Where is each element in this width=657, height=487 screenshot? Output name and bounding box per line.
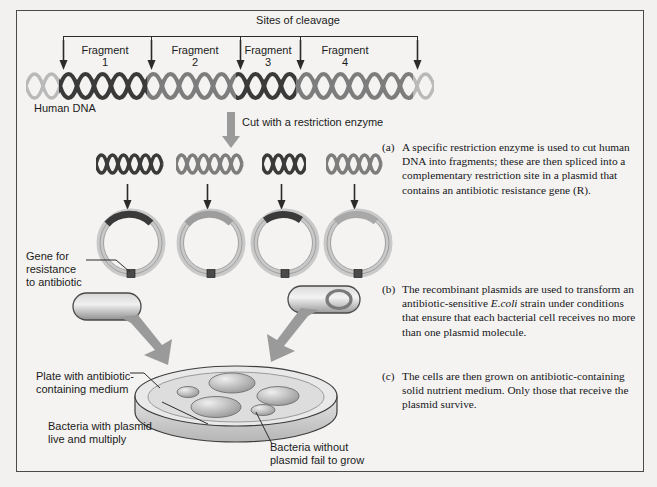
fail-leader-line (254, 412, 276, 446)
panel-b: (b) The recombinant plasmids are used to… (382, 282, 636, 339)
colony-large (257, 387, 299, 406)
plasmid-insert (187, 214, 231, 224)
panel-b-species-name: E.coli (491, 297, 518, 309)
plasmid-insert (107, 214, 151, 224)
sites-of-cleavage-label: Sites of cleavage (218, 14, 378, 27)
live-leader-line (158, 400, 210, 426)
plasmid-insert (336, 214, 376, 222)
plasmid-insert (265, 214, 301, 220)
resistance-marker (207, 270, 215, 278)
plasmid-3 (248, 207, 322, 279)
bacteria-fail-label: Bacteria without plasmid fail to grow (270, 441, 364, 467)
panel-c-tag: (c) (382, 369, 402, 383)
human-dna-label: Human DNA (34, 102, 96, 115)
colony-small (177, 387, 199, 398)
panel-c-body: The cells are then grown on antibiotic-c… (402, 369, 636, 412)
panel-a: (a) A specific restriction enzyme is use… (382, 140, 636, 197)
fragment-helix-4 (326, 148, 384, 180)
cut-step-arrow-icon (222, 112, 240, 148)
fragment-name: Fragment (81, 44, 128, 56)
plasmid-4 (321, 207, 395, 279)
colony-large (209, 373, 255, 393)
panel-a-body: A specific restriction enzyme is used to… (402, 140, 636, 197)
gene-leader-line (86, 258, 132, 276)
plate-leader-line (130, 372, 162, 390)
fragment-helix-2 (176, 148, 246, 180)
fragment-name: Fragment (244, 44, 291, 56)
fragment-helix-3 (262, 148, 306, 180)
panel-b-tag: (b) (382, 282, 402, 296)
fragment-name: Fragment (171, 44, 218, 56)
panel-c: (c) The cells are then grown on antibiot… (382, 369, 636, 412)
resistance-marker (354, 270, 362, 278)
panel-a-tag: (a) (382, 140, 402, 154)
gene-for-resistance-label: Gene for resistance to antibiotic (26, 250, 82, 289)
cut-step-label: Cut with a restriction enzyme (242, 116, 383, 129)
petri-dish (132, 352, 340, 444)
fragment-name: Fragment (321, 44, 368, 56)
plate-label: Plate with antibiotic- containing medium (36, 370, 134, 396)
fragment-helix-1 (96, 148, 166, 180)
resistance-marker (281, 270, 289, 278)
figure-root: Sites of cleavage Fragment 1 Fragment 2 … (0, 0, 657, 487)
plasmid-2 (174, 207, 248, 279)
bacteria-live-label: Bacteria with plasmid live and multiply (48, 420, 152, 446)
panel-b-body: The recombinant plasmids are used to tra… (402, 282, 636, 339)
